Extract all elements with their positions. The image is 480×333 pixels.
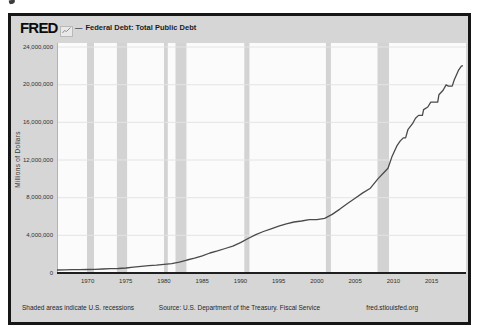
- y-tick-label: 0: [11, 269, 53, 278]
- y-tick-label: 16,000,000: [11, 118, 53, 127]
- x-tick-label: 1975: [110, 278, 142, 284]
- x-tick-label: 2005: [339, 278, 371, 284]
- recession-band: [87, 43, 94, 273]
- fred-logo: FRED: [20, 19, 58, 36]
- x-tick-label: 1995: [263, 278, 295, 284]
- legend: —Federal Debt: Total Public Debt: [75, 23, 196, 32]
- legend-line-sample: —: [75, 23, 83, 32]
- x-tick-label: 1985: [186, 278, 218, 284]
- y-tick-label: 24,000,000: [11, 43, 53, 52]
- footer-site-url: fred.stlouisfed.org: [366, 304, 418, 311]
- recession-band: [176, 43, 187, 273]
- recession-band: [378, 43, 390, 273]
- plot-area: [57, 43, 466, 275]
- fred-chart-screenshot: FRED —Federal Debt: Total Public Debt Mi…: [0, 0, 480, 333]
- legend-series-label: Federal Debt: Total Public Debt: [86, 23, 197, 32]
- recession-band: [326, 43, 331, 273]
- fred-logo-chart-icon: [60, 26, 73, 37]
- x-tick-label: 1970: [72, 278, 104, 284]
- footer-source-note: Source: U.S. Department of the Treasury.…: [121, 304, 358, 311]
- x-tick-label: 2015: [416, 278, 448, 284]
- x-tick-label: 1980: [148, 278, 180, 284]
- x-tick-label: 1990: [225, 278, 257, 284]
- recession-band: [164, 43, 168, 273]
- scan-artifact: [9, 0, 15, 4]
- chart-canvas: FRED —Federal Debt: Total Public Debt Mi…: [11, 16, 468, 322]
- y-tick-label: 4,000,000: [11, 231, 53, 240]
- footer-recession-note: Shaded areas indicate U.S. recessions: [22, 304, 134, 311]
- y-tick-label: 12,000,000: [11, 156, 53, 165]
- chart-frame: FRED —Federal Debt: Total Public Debt Mi…: [8, 13, 471, 325]
- recession-band: [117, 43, 127, 273]
- x-tick-label: 2000: [301, 278, 333, 284]
- y-tick-label: 20,000,000: [11, 80, 53, 89]
- y-tick-label: 8,000,000: [11, 193, 53, 202]
- x-tick-label: 2010: [377, 278, 409, 284]
